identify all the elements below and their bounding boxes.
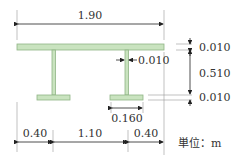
bottom-flange-thickness-label: 0.010 [199,91,231,104]
bottom-flange-width-label: 0.160 [111,112,143,125]
web-left [52,50,56,95]
girder-structure [17,44,164,100]
cross-section-diagram: 1.90 0.010 0.010 0.510 0.010 0.160 0.40 … [0,0,232,167]
right-overhang-label: 0.40 [134,127,159,140]
web-thickness-label: 0.010 [138,54,170,67]
web-right [125,50,129,95]
bottom-flange-left [37,95,70,100]
web-height-label: 0.510 [199,67,231,80]
left-overhang-label: 0.40 [23,127,48,140]
girder-spacing-label: 1.10 [78,127,103,140]
top-flange [17,44,164,50]
unit-label: 単位：m [178,136,222,150]
total-width-label: 1.90 [78,9,103,22]
top-flange-thickness-label: 0.010 [199,41,231,54]
bottom-flange-right [110,95,143,100]
